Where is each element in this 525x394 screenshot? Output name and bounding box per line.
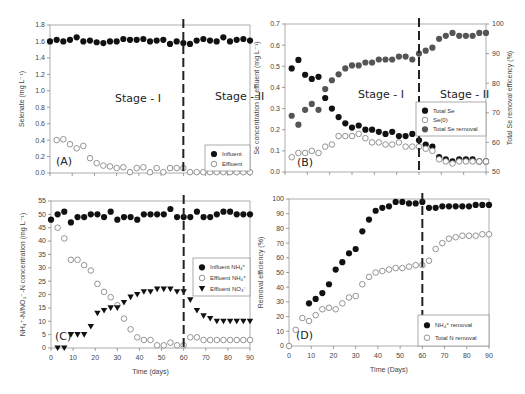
data-point [221,337,227,343]
series-influent [47,34,253,47]
data-point [174,214,180,220]
data-point [470,33,476,39]
legend-marker [422,117,428,123]
data-point [413,200,419,206]
data-point [187,169,193,175]
y-tick-label: 30 [276,298,284,305]
data-point [167,165,173,171]
y2-tick-label: 90 [492,50,500,57]
data-point [94,160,100,166]
data-point [247,337,253,343]
y-tick-label: 0.1 [270,147,280,154]
data-point [369,59,375,65]
data-point [333,306,339,312]
data-point [114,217,120,223]
data-point [322,86,328,92]
data-point [463,33,469,39]
data-point [161,343,167,349]
data-point [406,200,412,206]
data-point [309,101,315,107]
y-tick-label: 0.6 [270,42,280,49]
data-point [396,53,402,59]
data-point [234,37,240,43]
data-point [380,268,386,274]
x-tick-label: 70 [202,354,210,361]
data-point [426,258,432,264]
data-point [188,335,194,341]
data-point [477,159,483,165]
data-point [187,214,193,220]
y-tick-label: 1.6 [35,38,45,45]
data-point [247,319,253,325]
data-point [88,211,94,217]
data-point [409,56,415,62]
data-point [353,246,359,252]
data-point [396,140,402,146]
data-point [302,107,308,113]
data-point [382,131,388,137]
y2-tick-label: 50 [492,168,500,175]
data-point [393,199,399,205]
data-point [403,144,409,150]
series-nh-removal [306,199,492,307]
data-point [313,296,319,302]
panel-label: (B) [297,156,313,169]
data-point [460,233,466,239]
data-point [134,217,140,223]
data-point [68,257,74,263]
data-point [140,36,146,42]
data-point [141,337,147,343]
data-point [227,337,233,343]
data-point [396,133,402,139]
data-point [141,164,147,170]
data-point [410,144,416,150]
y-axis-label: Removal efficiency (%) [257,237,265,308]
data-point [356,131,362,137]
y-tick-label: 0.4 [270,84,280,91]
data-point [201,337,207,343]
data-point [160,37,166,43]
data-point [234,211,240,217]
data-point [450,161,456,167]
y-tick-label: 45 [38,224,46,231]
data-point [74,34,80,40]
legend-box [418,315,489,346]
data-point [446,236,452,242]
panel-label: (C) [55,330,71,343]
legend-marker [199,264,205,270]
panel-d: 0102030405060708090100010203040506070809… [257,193,493,374]
y2-tick-label: 60 [492,139,500,146]
y-tick-label: 0.2 [35,153,45,160]
data-point [289,65,295,71]
data-point [234,337,240,343]
panel-b: 0.00.10.20.30.40.50.60.75060708090100Se … [253,18,514,175]
data-point [174,165,180,171]
data-point [436,157,442,163]
legend-label: Total N removal [435,335,477,341]
data-point [289,154,295,160]
stage-1-label: Stage - I [115,92,161,105]
data-point [362,59,368,65]
y-tick-label: 0.6 [35,120,45,127]
data-point [456,33,462,39]
data-point [470,159,476,165]
data-point [302,150,308,156]
data-point [433,205,439,211]
data-point [227,38,233,44]
data-point [187,41,193,47]
data-point [114,165,120,171]
legend-marker [211,161,217,167]
data-point [67,37,73,43]
y-tick-label: 50 [38,211,46,218]
data-point [309,148,315,154]
y-tick-label: 20 [276,313,284,320]
data-point [240,319,246,325]
data-point [302,72,308,78]
legend-marker [422,108,428,114]
y-tick-label: 40 [276,284,284,291]
data-point [376,140,382,146]
x-tick-label: 50 [158,354,166,361]
panel-label: (A) [56,155,72,168]
data-point [453,203,459,209]
x-tick-label: 10 [69,354,77,361]
